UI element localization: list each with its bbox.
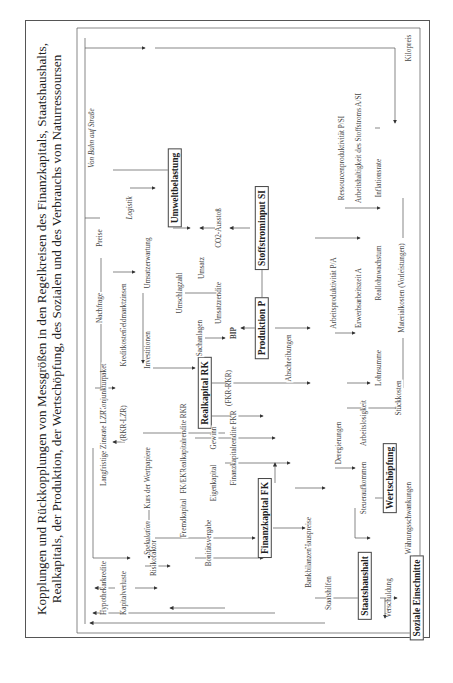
connector-lines <box>25 20 430 638</box>
label-kurs-wertpapiere: Kurs der Wertpapiere <box>145 446 152 510</box>
label-langfristige-zinsen: Langfristige Zinsrate LZR <box>101 409 108 487</box>
label-bip: BIP <box>231 326 238 340</box>
diagram-canvas: Kopplungen und Rückkopplungen von Messgr… <box>25 20 430 638</box>
label-stueckkosten: Stückkosten <box>396 379 403 416</box>
label-konjunkturpaket: Konjunkturpaket <box>101 363 108 414</box>
label-reallohnwachstum: Reallohnwachstum <box>376 244 383 301</box>
label-risikofaktor: Risikofaktor <box>151 539 158 577</box>
label-waehrungsschwankungen: Währungsschwankungen <box>406 481 413 555</box>
label-abschreibungen: Abschreibungen <box>286 333 293 382</box>
label-kilopreis: Kilopreis <box>406 34 413 63</box>
label-preise: Preise <box>97 228 104 248</box>
label-investitionen: Investitionen <box>145 330 152 370</box>
label-ressourcenproduktivitaet: Ressourcenproduktivität P/SI <box>339 115 346 201</box>
label-materialkosten: Materialkosten (Vorleistungen) <box>399 242 406 334</box>
label-nachfrage: Nachfrage <box>97 292 104 324</box>
label-verschuldung: Verschuldung <box>386 577 393 619</box>
label-logistik: Logistik <box>127 195 134 220</box>
label-deregierungen: Deregierungen <box>336 421 343 466</box>
label-rkr-lzr: (RKR-LZR) <box>121 404 128 442</box>
label-arbeitsproduktivitaet: Arbeitsproduktivität P/A <box>331 256 338 329</box>
label-umsatz: Umsatz <box>199 256 206 280</box>
label-steueraufkommen: Steueraufkommen <box>361 461 368 516</box>
label-co2: CO2-Ausstoß <box>216 207 223 249</box>
box-finanzkapital: Finanzkapital FK <box>258 478 272 558</box>
label-bankbilanzen: Bankbilanzen <box>306 547 313 589</box>
connector <box>93 448 130 558</box>
label-hypothekarkredite: Hypothekarkredite <box>101 560 108 616</box>
box-realkapital: Realkapital RK <box>198 357 212 429</box>
label-umschlagzahl: Umschlagzahl <box>177 271 184 314</box>
box-stoffstrominput: Stoffstrominput SI <box>255 186 269 270</box>
label-erwerbsarbeitszeit: Erwerbsarbeitszeit A <box>356 267 363 329</box>
box-wertschoepfung: Wertschöpfung <box>383 443 397 513</box>
label-geldmarktzinsen: Geldmarktzinsen <box>121 282 128 333</box>
label-inflationsrate: Inflationsrate <box>376 158 383 198</box>
label-umsatzerwartung: Umsatzerwartung <box>145 236 152 289</box>
box-umweltbelastung: Umweltbelastung <box>168 149 182 228</box>
label-umsatzrendite: Umsatzrendite <box>216 281 223 325</box>
label-fremdkapital: Fremdkapital <box>181 498 188 538</box>
box-staatshaushalt: Staatshaushalt <box>358 552 372 620</box>
label-realkapitalrendite: Realkapitalrendite RKR <box>181 402 188 473</box>
label-bonitaetsvergabe: Bonitätsvergabe <box>206 519 213 568</box>
label-von-bahn: Von Bahn auf Straße <box>89 107 96 168</box>
label-finanzkapitalrendite: Finanzkapitalrendite FKR <box>231 410 238 487</box>
label-kapitalverluste: Kapitalverluste <box>121 570 128 616</box>
label-arbeitslosigkeit: Arbeitslosigkeit <box>361 399 368 447</box>
label-fk-ek: FK/EK <box>181 472 188 495</box>
label-kreditkosten: Kreditkosten <box>121 328 128 367</box>
label-staatshilfen: Staatshilfen <box>326 575 333 611</box>
label-sachanlagen: Sachanlagen <box>197 319 204 357</box>
label-fkr-rkr: (FKR-RKR) <box>226 369 233 407</box>
label-lohnsumme: Lohnsumme <box>376 349 383 387</box>
box-produktion: Produktion P <box>255 297 269 359</box>
label-hauspreise: Hauspreise <box>306 516 313 550</box>
label-arbeitshaltigkeit: Arbeitshaltigkeit des Stoffstroms A/SI <box>356 92 363 204</box>
box-soziale-einschnitte: Soziale Einschnitte <box>410 556 424 641</box>
label-gewinn: Gewinn <box>211 426 218 451</box>
label-eigenkapital: Eigenkapital <box>211 464 218 502</box>
